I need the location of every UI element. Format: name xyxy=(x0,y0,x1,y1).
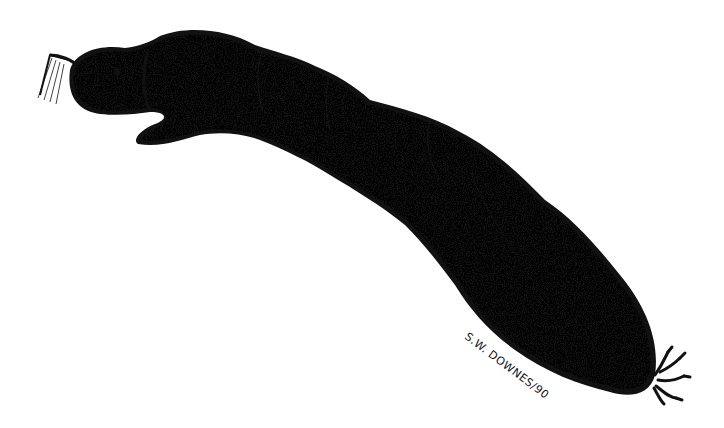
tail-papillae xyxy=(654,347,690,404)
larva-body xyxy=(69,30,656,395)
eye-spot xyxy=(114,68,120,76)
larva-illustration xyxy=(0,0,724,428)
